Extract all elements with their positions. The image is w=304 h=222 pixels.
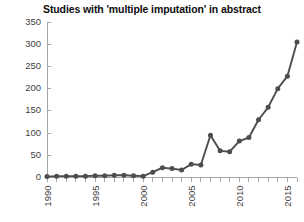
y-tick-label: 0 [36, 171, 41, 182]
data-point-marker [73, 174, 78, 179]
x-tick-label: 1990 [42, 186, 53, 207]
data-point-marker [141, 174, 146, 179]
data-point-marker [189, 162, 194, 167]
data-point-marker [54, 174, 59, 179]
data-point-marker [121, 173, 126, 178]
y-tick-label: 300 [25, 38, 41, 49]
data-point-marker [256, 117, 261, 122]
line-chart-plot: 050100150200250300350 199019952000200520… [0, 0, 304, 222]
data-point-marker [208, 133, 213, 138]
y-tick-label: 350 [25, 16, 41, 27]
x-tick-label: 2010 [234, 186, 245, 207]
data-point-marker [275, 86, 280, 91]
data-point-marker [227, 149, 232, 154]
data-point-marker [45, 174, 50, 179]
data-point-marker [112, 173, 117, 178]
data-series-markers [45, 39, 300, 179]
data-point-marker [102, 173, 107, 178]
data-point-marker [170, 166, 175, 171]
data-point-marker [246, 135, 251, 140]
y-tick-label: 200 [25, 82, 41, 93]
y-axis-tick-marks [47, 22, 51, 178]
data-point-marker [285, 74, 290, 79]
y-axis-tick-labels: 050100150200250300350 [25, 16, 41, 183]
data-point-marker [64, 174, 69, 179]
x-tick-label: 2000 [138, 186, 149, 207]
data-point-marker [179, 167, 184, 172]
data-point-marker [266, 105, 271, 110]
data-point-marker [237, 139, 242, 144]
chart-figure: Studies with 'multiple imputation' in ab… [0, 0, 304, 222]
x-tick-label: 1995 [90, 186, 101, 207]
data-point-marker [218, 148, 223, 153]
y-tick-label: 50 [30, 149, 41, 160]
data-point-marker [295, 39, 300, 44]
data-series-line [47, 42, 297, 177]
data-point-marker [160, 165, 165, 170]
y-tick-label: 150 [25, 104, 41, 115]
x-tick-label: 2005 [186, 186, 197, 207]
x-axis-tick-labels: 199019952000200520102015 [42, 186, 293, 207]
data-point-marker [93, 173, 98, 178]
data-point-marker [198, 163, 203, 168]
data-point-marker [150, 170, 155, 175]
y-tick-label: 250 [25, 60, 41, 71]
x-tick-label: 2015 [282, 186, 293, 207]
data-point-marker [131, 173, 136, 178]
data-point-marker [83, 174, 88, 179]
y-tick-label: 100 [25, 127, 41, 138]
